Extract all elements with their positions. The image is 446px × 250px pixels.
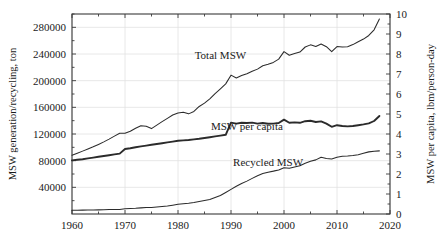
y-right-tick-labels: 012345678910 [396, 8, 408, 220]
x-tick-labels: 1960197019801990200020102020 [61, 219, 402, 231]
x-tick-label: 2000 [273, 219, 296, 231]
annotation-total-msw: Total MSW [195, 49, 247, 61]
y-right-tick-label: 5 [396, 108, 402, 120]
y-left-tick-label: 240000 [33, 48, 67, 60]
y-left-tick-label: 160000 [33, 101, 67, 113]
y-right-tick-label: 9 [396, 28, 402, 40]
y-right-tick-label: 6 [396, 88, 402, 100]
y-left-tick-label: 40000 [39, 181, 67, 193]
x-tick-label: 1970 [114, 219, 137, 231]
y-axis-right-title: MSW per capita, lbm/person-day [425, 43, 436, 184]
msw-trends-chart: 1960197019801990200020102020 40000800001… [0, 0, 446, 250]
y-right-tick-label: 10 [396, 8, 408, 20]
series-line-recycled-msw [72, 151, 379, 210]
y-right-tick-label: 4 [396, 128, 402, 140]
y-right-tick-label: 0 [396, 208, 402, 220]
y-right-tick-label: 1 [396, 188, 402, 200]
x-tick-label: 1990 [220, 219, 243, 231]
gridlines [72, 14, 390, 214]
x-tick-label: 1980 [167, 219, 190, 231]
y-left-tick-label: 80000 [39, 155, 67, 167]
y-left-tick-labels: 4000080000120000160000200000240000280000 [33, 21, 67, 193]
data-series [72, 19, 379, 210]
annotation-msw-per-capita: MSW per capita [211, 120, 283, 132]
y-right-tick-label: 2 [396, 168, 402, 180]
y-right-tick-label: 7 [396, 68, 402, 80]
y-left-tick-label: 200000 [33, 75, 67, 87]
series-annotations: Total MSWMSW per capitaRecycled MSW [195, 49, 304, 168]
x-tick-label: 1960 [61, 219, 84, 231]
y-right-tick-label: 3 [396, 148, 402, 160]
x-tick-label: 2010 [326, 219, 349, 231]
chart-figure: 1960197019801990200020102020 40000800001… [0, 0, 446, 250]
y-left-tick-label: 280000 [33, 21, 67, 33]
y-left-tick-label: 120000 [33, 128, 67, 140]
y-axis-left-title: MSW generation/recycling, ton [7, 47, 18, 180]
x-tick-label: 2020 [379, 219, 402, 231]
y-right-tick-label: 8 [396, 48, 402, 60]
annotation-recycled-msw: Recycled MSW [233, 156, 304, 168]
